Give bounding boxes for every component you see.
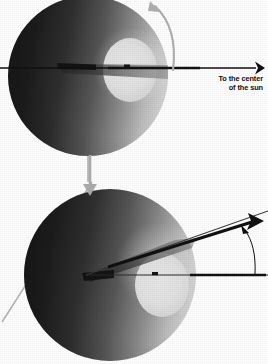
- transition-layer: [0, 0, 268, 364]
- figure-canvas: To the center of the sun: [0, 0, 268, 364]
- transition-down-arrowhead: [83, 184, 97, 196]
